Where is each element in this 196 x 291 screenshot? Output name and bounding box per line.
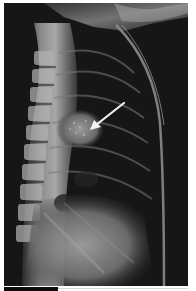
panel-label: A: [14, 267, 22, 279]
divider-line: [58, 288, 188, 289]
mediastinal-opacity: [56, 109, 104, 149]
caption-bar: [4, 287, 58, 291]
radiograph-drawing: [4, 3, 188, 286]
radiograph-image: A: [4, 3, 188, 286]
